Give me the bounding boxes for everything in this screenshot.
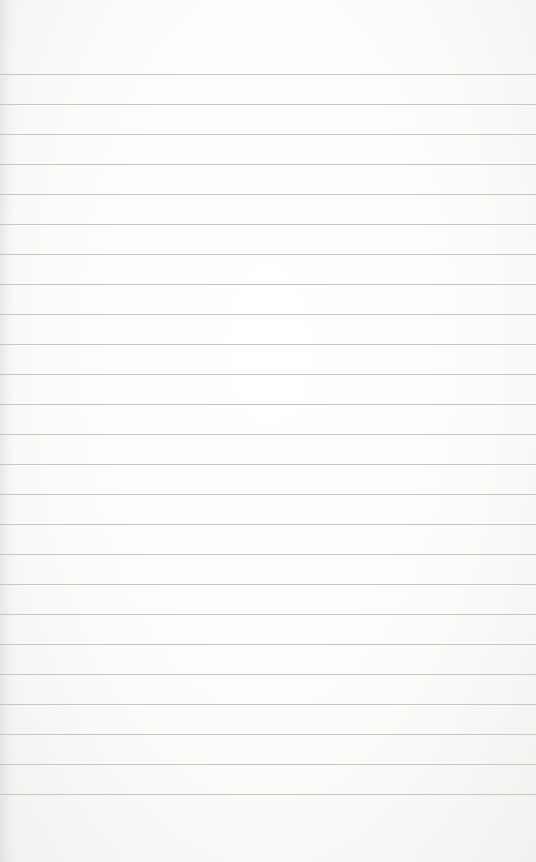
ruled-line [0,524,536,525]
ruled-line [0,374,536,375]
ruled-line [0,134,536,135]
ruled-line [0,254,536,255]
ruled-line [0,764,536,765]
ruled-line [0,404,536,405]
ruled-line [0,194,536,195]
ruled-line [0,614,536,615]
ruled-line [0,644,536,645]
ruled-line [0,704,536,705]
ruled-line [0,284,536,285]
ruled-paper [0,0,536,862]
ruled-line [0,314,536,315]
ruled-line [0,164,536,165]
ruled-line [0,794,536,795]
ruled-line [0,734,536,735]
ruled-line [0,554,536,555]
ruled-line [0,674,536,675]
ruled-line [0,344,536,345]
ruled-line [0,434,536,435]
left-edge-shadow [0,0,14,862]
ruled-line [0,494,536,495]
ruled-line [0,224,536,225]
ruled-line [0,74,536,75]
ruled-line [0,584,536,585]
ruled-line [0,464,536,465]
ruled-line [0,104,536,105]
